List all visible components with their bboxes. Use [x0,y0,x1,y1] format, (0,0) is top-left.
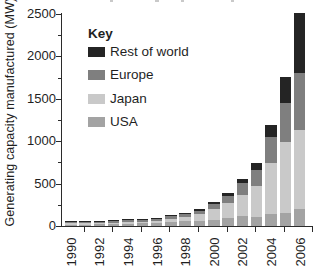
y-tick-minor [58,162,61,163]
legend-item-rest-of-world: Rest of world [88,45,189,59]
bar-segment-usa [194,221,206,226]
bar-segment-europe [280,103,292,143]
bar-segment-japan [208,209,220,220]
bar-segment-europe [294,73,306,131]
x-tick-label: 1992 [93,233,106,267]
y-tick-minor [58,205,61,206]
y-tick-label: 0 [16,219,56,233]
y-tick-minor [58,35,61,36]
y-tick-label: 1000 [16,134,56,148]
stacked-bar-chart-figure: Generating capacity manufactured (MW) 05… [0,0,313,269]
x-tick [112,227,113,232]
x-tick-label: 2006 [293,233,306,267]
y-tick-major [56,56,61,57]
bar-segment-usa [222,218,234,226]
y-tick-minor [58,78,61,79]
bar-1990 [65,221,77,226]
x-tick [198,227,199,232]
bar-segment-europe [222,196,234,203]
legend-title: Key [88,26,208,42]
bar-segment-rest-of-world [294,13,306,72]
x-tick [255,227,256,232]
bar-2002 [237,179,249,226]
usa-swatch-icon [88,117,105,127]
bar-segment-rest-of-world [265,125,277,137]
bar-segment-usa [251,217,263,226]
bar-2000 [208,202,220,226]
bar-segment-japan [265,163,277,214]
bar-1992 [94,221,106,226]
bar-segment-japan [294,130,306,209]
legend: Key Rest of world Europe Japan USA [88,26,208,42]
bar-segment-usa [137,223,149,226]
legend-item-usa: USA [88,115,138,129]
legend-item-label: USA [110,115,138,129]
bar-1998 [179,213,191,226]
bar-1995 [137,219,149,226]
bar-segment-usa [237,216,249,226]
bar-1993 [108,220,120,226]
bar-1996 [151,218,163,226]
bar-segment-usa [151,223,163,226]
legend-item-label: Europe [110,68,154,82]
y-tick-major [56,99,61,100]
y-tick-major [56,14,61,15]
y-tick-major [56,226,61,227]
bar-segment-usa [294,209,306,226]
x-tick [227,227,228,232]
x-tick-label: 1996 [150,233,163,267]
bar-segment-usa [179,221,191,226]
y-tick-label: 2500 [16,7,56,21]
x-tick [141,227,142,232]
x-tick-label: 2002 [236,233,249,267]
x-tick-label: 1998 [179,233,192,267]
x-tick [284,227,285,232]
x-tick [312,227,313,232]
x-tick [84,227,85,232]
bar-1997 [165,215,177,226]
bar-2005 [280,77,292,226]
legend-item-japan: Japan [88,92,147,106]
y-tick-minor [58,120,61,121]
japan-swatch-icon [88,94,105,104]
bar-segment-europe [265,137,277,164]
bar-2001 [222,193,234,226]
bar-segment-japan [237,195,249,216]
bar-2004 [265,125,277,226]
bar-segment-usa [208,220,220,226]
bar-1994 [122,219,134,226]
bar-segment-europe [237,183,249,194]
y-tick-label: 500 [16,177,56,191]
bar-segment-usa [122,224,134,226]
europe-swatch-icon [88,70,105,80]
x-tick-label: 2000 [207,233,220,267]
x-tick-label: 1994 [121,233,134,267]
rest-of-world-swatch-icon [88,47,105,57]
bar-2003 [251,163,263,226]
bar-1999 [194,209,206,226]
bar-2006 [294,13,306,226]
bar-segment-usa [108,224,120,226]
legend-item-label: Japan [110,92,147,106]
bar-segment-rest-of-world [280,77,292,102]
bar-segment-japan [280,142,292,212]
legend-item-europe: Europe [88,68,154,82]
bar-segment-usa [280,213,292,226]
y-tick-label: 1500 [16,92,56,106]
bar-segment-usa [165,222,177,226]
y-tick-major [56,184,61,185]
y-tick-major [56,141,61,142]
bar-segment-japan [251,186,263,217]
bar-1991 [79,221,91,226]
bar-segment-japan [194,214,206,221]
bar-segment-europe [251,170,263,186]
bar-segment-usa [265,214,277,226]
bar-segment-usa [79,225,91,226]
bar-segment-rest-of-world [251,163,263,170]
y-tick-label: 2000 [16,49,56,63]
bar-segment-usa [94,224,106,226]
x-tick-label: 1990 [64,233,77,267]
legend-item-label: Rest of world [110,45,189,59]
bar-segment-japan [222,203,234,217]
x-tick-label: 2004 [264,233,277,267]
